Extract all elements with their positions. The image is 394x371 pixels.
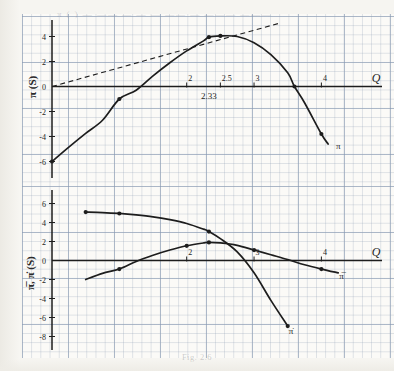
svg-text:2: 2 (188, 74, 192, 83)
svg-text:2.33: 2.33 (201, 91, 217, 101)
svg-text:4: 4 (42, 219, 46, 228)
chart-avg-marginal-profit: 6420-2-4-6-8234 π̅π̇Q (22, 186, 394, 358)
page-edge-bottom (0, 359, 394, 371)
svg-text:-6: -6 (39, 158, 46, 167)
svg-text:-4: -4 (39, 133, 46, 142)
svg-text:4: 4 (323, 74, 327, 83)
svg-text:-2: -2 (39, 276, 46, 285)
svg-text:4: 4 (323, 248, 327, 257)
svg-text:3: 3 (256, 74, 260, 83)
svg-text:4: 4 (42, 33, 46, 42)
svg-text:2.5: 2.5 (222, 74, 232, 83)
svg-text:0: 0 (42, 257, 46, 266)
curves-top (50, 23, 328, 164)
y-axis-label-bottom: π̅, π̇ (S) (24, 256, 36, 290)
axes-bottom (52, 190, 382, 350)
total-profit-svg: 420-2-4-622.534 2.33πQ (22, 14, 394, 186)
svg-text:Q: Q (372, 245, 381, 259)
svg-text:Q: Q (372, 71, 381, 85)
svg-text:3: 3 (256, 248, 260, 257)
svg-text:6: 6 (42, 200, 46, 209)
curves-bottom (84, 210, 339, 328)
page-edge-left (0, 0, 20, 371)
labels-bottom: π̅π̇Q (289, 245, 381, 336)
svg-text:-8: -8 (39, 333, 46, 342)
svg-text:π: π (336, 141, 341, 151)
svg-text:0: 0 (42, 83, 46, 92)
avg-marginal-profit-svg: 6420-2-4-6-8234 π̅π̇Q (22, 186, 394, 358)
svg-text:-2: -2 (39, 108, 46, 117)
svg-text:2: 2 (188, 248, 192, 257)
svg-text:-6: -6 (39, 314, 46, 323)
svg-text:π̅: π̅ (339, 271, 347, 281)
svg-text:2: 2 (42, 58, 46, 67)
axes-top (52, 20, 382, 178)
chart-total-profit: 420-2-4-622.534 2.33πQ (22, 14, 394, 186)
svg-text:π̇: π̇ (289, 326, 295, 336)
y-axis-label-top: π (S) (26, 76, 38, 98)
svg-text:-4: -4 (39, 295, 46, 304)
svg-text:2: 2 (42, 238, 46, 247)
scanned-page: π ( ) — —— — — — —— — ——— ——— 420-2-4-62… (0, 0, 394, 371)
